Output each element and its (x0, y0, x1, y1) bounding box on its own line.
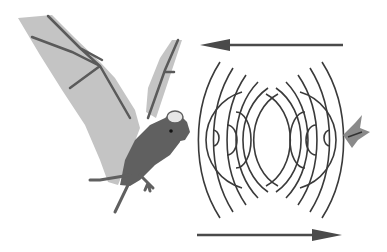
return-arrow (197, 229, 342, 241)
bat-left-wing (18, 15, 140, 185)
echolocation-diagram (0, 0, 387, 252)
diagram-canvas (0, 0, 387, 252)
bat-illustration (18, 15, 190, 212)
outgoing-arrow (200, 39, 343, 51)
moth-illustration (343, 115, 370, 148)
moth-wings (343, 115, 370, 148)
right-arrowhead-icon (312, 229, 342, 241)
bat-eye (169, 129, 173, 133)
echo-sound-waves (266, 62, 344, 218)
bat-ear (167, 111, 183, 123)
left-arrowhead-icon (200, 39, 230, 51)
outgoing-sound-waves (198, 62, 278, 218)
